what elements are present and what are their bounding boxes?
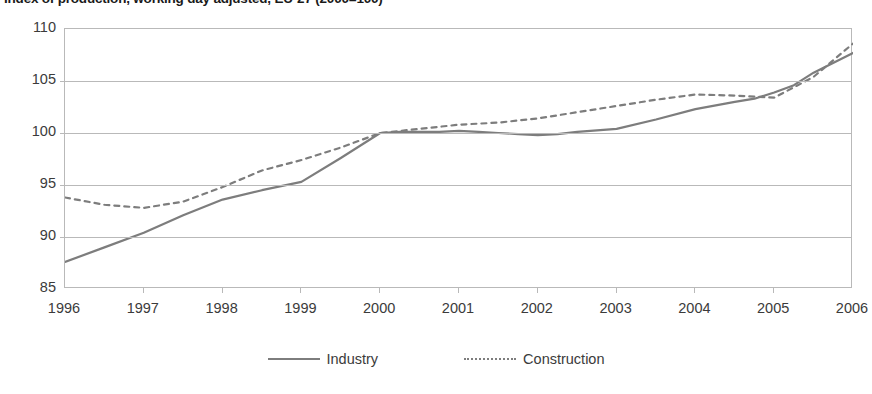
y-tick xyxy=(60,237,65,238)
x-tick-label: 1997 xyxy=(127,300,159,316)
y-tick-label: 100 xyxy=(4,124,56,139)
y-tick-label: 85 xyxy=(4,280,56,295)
x-tick xyxy=(773,288,774,293)
y-tick xyxy=(60,185,65,186)
y-tick-label: 90 xyxy=(4,228,56,243)
y-tick xyxy=(60,81,65,82)
series-lines xyxy=(65,29,853,289)
legend-item-industry: Industry xyxy=(268,352,379,367)
legend-label-industry: Industry xyxy=(327,352,379,367)
x-tick xyxy=(458,288,459,293)
x-tick xyxy=(694,288,695,293)
x-tick-label: 1999 xyxy=(284,300,316,316)
chart-legend: Industry Construction xyxy=(0,352,872,367)
x-tick-label: 2004 xyxy=(678,300,710,316)
x-axis: 1996199719981999200020012002200320042005… xyxy=(64,288,852,328)
x-tick-label: 1996 xyxy=(48,300,80,316)
series-line-industry xyxy=(65,53,853,262)
y-tick xyxy=(60,133,65,134)
y-axis: 859095100105110 xyxy=(0,28,56,288)
gridline xyxy=(65,81,851,82)
gridline xyxy=(65,133,851,134)
legend-line-solid-icon xyxy=(268,358,320,360)
x-tick-label: 2006 xyxy=(836,300,868,316)
x-tick xyxy=(222,288,223,293)
legend-line-dashed-icon xyxy=(464,358,516,360)
x-tick-label: 2003 xyxy=(599,300,631,316)
gridline xyxy=(65,237,851,238)
x-tick xyxy=(537,288,538,293)
x-tick-label: 1998 xyxy=(205,300,237,316)
series-line-construction xyxy=(65,44,853,208)
x-tick-label: 2001 xyxy=(442,300,474,316)
x-tick xyxy=(300,288,301,293)
chart-title: Index of production, working day adjuste… xyxy=(4,0,383,6)
x-tick xyxy=(379,288,380,293)
x-tick xyxy=(143,288,144,293)
x-tick xyxy=(616,288,617,293)
gridline xyxy=(65,185,851,186)
x-tick-label: 2002 xyxy=(521,300,553,316)
plot-area xyxy=(64,28,852,288)
chart-figure: Index of production, working day adjuste… xyxy=(0,0,872,394)
y-tick-label: 110 xyxy=(4,20,56,35)
x-tick-label: 2005 xyxy=(757,300,789,316)
y-tick-label: 105 xyxy=(4,72,56,87)
legend-item-construction: Construction xyxy=(464,352,604,367)
y-tick-label: 95 xyxy=(4,176,56,191)
x-tick-label: 2000 xyxy=(363,300,395,316)
legend-label-construction: Construction xyxy=(523,352,604,367)
